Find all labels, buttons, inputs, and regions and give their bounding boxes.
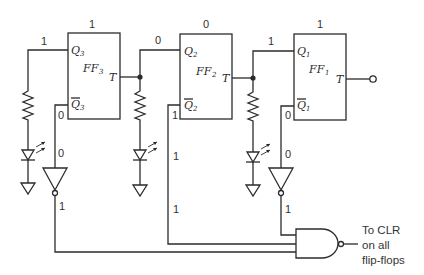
svg-text:3: 3 [99,68,104,76]
ff2-q-label: Q [184,45,193,58]
svg-text:1: 1 [306,51,310,59]
ff3-state-value: 1 [89,18,95,30]
svg-text:2: 2 [211,71,217,79]
led-icon [133,142,157,160]
counter-circuit-diagram: 1 Q 3 FF 3 T Q 3 1 0 0 1 0 Q 2 FF 2 T Q … [0,0,424,275]
flip-flop-ff2: 0 Q 2 FF 2 T Q 2 [180,18,232,119]
inverter-icon [43,168,67,196]
ff1-q-label: Q [297,45,306,58]
ff1-qbar-label: Q [297,99,306,112]
ff2-qbar-value: 1 [172,109,178,121]
ff3-name-label: FF [82,62,99,75]
ff1-inverter-in-value: 0 [285,148,291,160]
ff1-inverter-out-value: 1 [285,203,291,215]
ff1-qbar-value: 0 [285,109,291,121]
svg-text:1: 1 [306,105,310,113]
ff2-qbar-label: Q [184,99,193,112]
ff3-qbar-value: 0 [58,109,64,121]
ff1-state-value: 1 [317,18,323,30]
led-icon [246,144,270,162]
ff3-inverter-in-value: 0 [58,147,64,159]
ff2-q-value: 0 [155,34,161,46]
svg-text:2: 2 [192,105,198,113]
output-note-line2: on all [362,239,390,251]
ff2-name-label: FF [195,65,212,78]
output-note-line1: To CLR [362,224,400,236]
ff3-q-value: 1 [41,35,47,47]
clock-input-terminal [370,76,376,82]
ff3-inverter-out-value: 1 [59,200,65,212]
svg-text:1: 1 [325,69,329,77]
svg-text:2: 2 [192,51,198,59]
ff3-q-label: Q [71,44,80,57]
ground-icon [133,185,147,196]
ff1-q-value: 1 [268,35,274,47]
ff2-line-value: 1 [173,150,179,162]
ground-icon [246,185,260,196]
ff3-qbar-label: Q [71,98,80,111]
ff2-bottom-value: 1 [173,203,179,215]
ground-icon [21,183,35,194]
ff2-state-value: 0 [203,18,209,30]
output-note-line3: flip-flops [362,254,405,266]
ff1-name-label: FF [308,63,325,76]
flip-flop-ff1: 1 Q 1 FF 1 T Q 1 [294,18,346,120]
svg-text:3: 3 [80,50,85,58]
led-icon [21,142,45,160]
inverter-icon [269,168,293,196]
svg-text:3: 3 [80,104,85,112]
nand-gate [296,229,358,258]
flip-flop-ff3: 1 Q 3 FF 3 T Q 3 [68,18,120,119]
